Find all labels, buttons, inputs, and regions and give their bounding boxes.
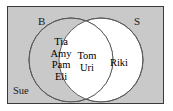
member-item: Tia — [54, 36, 68, 48]
member-item: Eli — [55, 71, 67, 83]
set-label-b: B — [38, 16, 45, 27]
member-item: Amy — [51, 48, 72, 60]
intersection-members: Tom Uri — [74, 50, 100, 73]
member-item: Pam — [52, 59, 71, 71]
venn-diagram-figure: B S Tia Amy Pam Eli Tom Uri Riki Sue — [0, 0, 173, 111]
member-item: Tom — [77, 50, 96, 62]
outside-member: Sue — [13, 86, 29, 97]
member-item: Uri — [80, 62, 94, 74]
set-label-s: S — [134, 16, 140, 27]
member-item: Riki — [110, 57, 128, 69]
set-s-only-members: Riki — [103, 57, 135, 69]
